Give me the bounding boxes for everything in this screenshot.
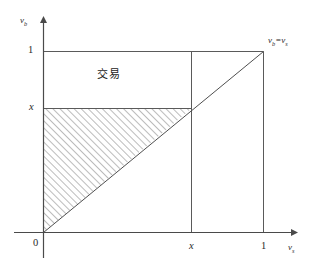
figure-container: vb vs vb=vs 1 x x 1 0 交易 — [0, 0, 314, 276]
diagonal-label-subscript-2: s — [285, 40, 287, 47]
diagonal-label-part-2: =v — [275, 35, 285, 45]
x-axis-title-subscript: s — [292, 247, 294, 254]
y-axis-title-subscript: b — [24, 20, 27, 27]
x-axis-title: vs — [288, 243, 294, 254]
y-axis-title: vb — [20, 16, 27, 27]
x-axis-tick-label-one: 1 — [261, 241, 266, 252]
x-axis-tick-label-x: x — [189, 241, 194, 252]
y-axis-tick-label-x: x — [29, 102, 34, 113]
diagonal-line-label: vb=vs — [268, 36, 288, 47]
y-axis-tick-label-one: 1 — [28, 45, 33, 56]
trade-region-label: 交易 — [97, 69, 120, 80]
origin-label: 0 — [33, 238, 38, 249]
diagram-canvas — [0, 0, 314, 276]
